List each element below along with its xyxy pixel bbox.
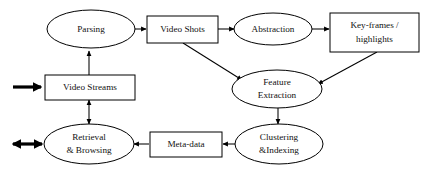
flowchart-canvas: Parsing Video Shots Abstraction Key-fram… xyxy=(0,0,431,178)
abstraction-label: Abstraction xyxy=(252,24,295,34)
clustering-indexing-label-line1: Clustering xyxy=(260,132,299,142)
feature-extraction-ellipse xyxy=(232,70,322,108)
node-keyframes-highlights[interactable]: Key-frames / highlights xyxy=(330,13,419,52)
node-clustering-indexing[interactable]: Clustering &Indexing xyxy=(235,124,323,164)
clustering-indexing-ellipse xyxy=(235,124,323,164)
video-streams-label: Video Streams xyxy=(63,82,117,92)
keyframes-label-line1: Key-frames / xyxy=(350,20,399,30)
clustering-indexing-label-line2: &Indexing xyxy=(259,145,299,155)
meta-data-label: Meta-data xyxy=(167,139,204,149)
feature-extraction-label-line2: Extraction xyxy=(258,90,297,100)
node-video-shots[interactable]: Video Shots xyxy=(147,16,218,43)
node-parsing[interactable]: Parsing xyxy=(47,10,135,48)
feature-extraction-label-line1: Feature xyxy=(263,77,291,87)
edge-keyframes-to-feature-extraction xyxy=(318,52,377,84)
edge-video-shots-to-feature-extraction xyxy=(183,43,242,80)
flowchart-diagram: Parsing Video Shots Abstraction Key-fram… xyxy=(0,0,431,178)
node-feature-extraction[interactable]: Feature Extraction xyxy=(232,70,322,108)
keyframes-rect xyxy=(330,13,419,52)
node-abstraction[interactable]: Abstraction xyxy=(234,13,312,45)
keyframes-label-line2: highlights xyxy=(356,34,393,44)
video-shots-label: Video Shots xyxy=(160,24,205,34)
retrieval-browsing-label-line1: Retrieval xyxy=(72,132,106,142)
parsing-label: Parsing xyxy=(77,24,105,34)
node-retrieval-browsing[interactable]: Retrieval & Browsing xyxy=(44,124,134,164)
retrieval-browsing-ellipse xyxy=(44,124,134,164)
node-video-streams[interactable]: Video Streams xyxy=(45,75,135,100)
node-meta-data[interactable]: Meta-data xyxy=(150,132,222,157)
retrieval-browsing-label-line2: & Browsing xyxy=(66,145,112,155)
